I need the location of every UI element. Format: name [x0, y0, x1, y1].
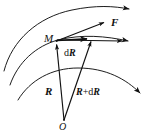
- tangent-vector: [57, 40, 122, 41]
- label-dr-r: R: [69, 47, 76, 58]
- diagram-canvas: [0, 0, 151, 137]
- label-displacement-dr: dR: [64, 48, 76, 58]
- vector-diagram-figure: M F dR R R+dR O: [0, 0, 151, 137]
- label-position-r-plus-dr: R+dR: [76, 87, 100, 97]
- label-rdr-r-tail: R: [93, 86, 100, 97]
- force-vector-F: [57, 23, 105, 42]
- position-vector-R: [57, 45, 64, 121]
- label-force-f: F: [111, 17, 118, 28]
- label-rdr-r-lead: R: [76, 86, 83, 97]
- trajectory-through-m-curve: [10, 36, 128, 85]
- label-position-r: R: [45, 86, 52, 97]
- label-origin-o: O: [59, 122, 66, 132]
- label-point-m: M: [44, 33, 53, 44]
- point-m-marker: [56, 40, 58, 42]
